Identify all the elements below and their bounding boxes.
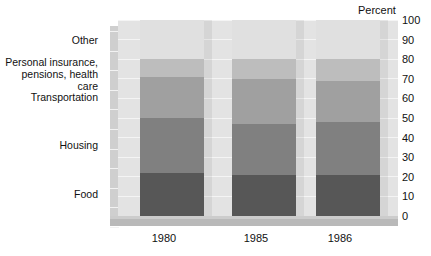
y-axis-tick-label: 10 (402, 191, 414, 202)
bar-1986[interactable] (316, 20, 380, 216)
y-axis-tick-label: 30 (402, 152, 414, 163)
bar-segment[interactable] (316, 81, 380, 122)
x-axis-tick-label: 1980 (129, 233, 199, 244)
y-axis-tick-label: 50 (402, 113, 414, 124)
bar-segment[interactable] (232, 175, 296, 216)
series-label-food: Food (74, 188, 98, 200)
axis-tick-left (110, 227, 119, 228)
stacked-bar-chart: Percent 10090807060504030201001980198519… (0, 0, 431, 256)
floor-top-edge (110, 216, 398, 219)
bar-segment[interactable] (140, 173, 204, 216)
y-axis-tick-label: 100 (402, 15, 420, 26)
bar-segment[interactable] (140, 118, 204, 173)
bar-side-face (380, 20, 388, 216)
bar-segment[interactable] (140, 77, 204, 118)
bar-segment[interactable] (232, 20, 296, 59)
series-label-personal-insurance: Personal insurance, pensions, health car… (0, 56, 98, 92)
series-label-other: Other (72, 34, 98, 46)
y-axis-tick-label: 70 (402, 74, 414, 85)
back-wall (118, 20, 398, 216)
plot-area (110, 20, 398, 222)
bar-segment[interactable] (232, 59, 296, 79)
y-axis-tick-label: 90 (402, 35, 414, 46)
bar-segment[interactable] (232, 124, 296, 175)
y-axis-tick-label: 0 (402, 211, 408, 222)
bar-segment[interactable] (316, 59, 380, 81)
bar-1980[interactable] (140, 20, 204, 216)
y-axis-tick-label: 40 (402, 133, 414, 144)
series-label-transportation: Transportation (31, 91, 98, 103)
bar-segment[interactable] (316, 122, 380, 175)
axis-title-percent: Percent (358, 4, 396, 16)
bar-segment[interactable] (140, 59, 204, 77)
bar-side-face (204, 20, 212, 216)
bar-segment[interactable] (140, 20, 204, 59)
bar-1985[interactable] (232, 20, 296, 216)
bar-segment[interactable] (316, 175, 380, 216)
series-label-housing: Housing (59, 139, 98, 151)
y-axis-tick-label: 80 (402, 54, 414, 65)
bar-segment[interactable] (232, 79, 296, 124)
bar-segment[interactable] (316, 20, 380, 59)
y-axis-tick-label: 60 (402, 93, 414, 104)
x-axis-tick-label: 1986 (305, 233, 375, 244)
x-axis-tick-label: 1985 (221, 233, 291, 244)
y-axis-tick-label: 20 (402, 172, 414, 183)
bar-side-face (296, 20, 304, 216)
